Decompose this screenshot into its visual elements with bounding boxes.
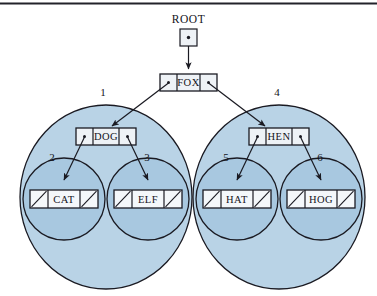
node-key-hog: HOG [309, 194, 333, 205]
subtree-label-6: 6 [317, 151, 323, 163]
node-fox: FOX [160, 74, 217, 91]
node-key-hen: HEN [267, 131, 290, 142]
node-key-fox: FOX [177, 77, 200, 88]
node-dog: DOG [76, 128, 136, 145]
node-hat: HAT [203, 190, 271, 208]
node-key-hat: HAT [226, 194, 248, 205]
bst-pointer-diagram: ROOT FOX 1 4 DOG 2 3 CAT [0, 0, 377, 296]
node-key-cat: CAT [53, 194, 74, 205]
root-pointer-dot [187, 36, 190, 39]
subtree-label-4: 4 [274, 86, 280, 98]
figure-canvas: ROOT FOX 1 4 DOG 2 3 CAT [0, 0, 377, 296]
node-key-elf: ELF [138, 194, 158, 205]
root-label: ROOT [172, 13, 206, 25]
subtree-label-2: 2 [49, 151, 55, 163]
node-cat: CAT [30, 190, 98, 208]
node-hen: HEN [249, 128, 309, 145]
subtree-label-5: 5 [223, 151, 229, 163]
node-elf: ELF [114, 190, 182, 208]
subtree-label-3: 3 [144, 151, 150, 163]
root-pointer-box [180, 29, 197, 46]
subtree-label-1: 1 [100, 86, 106, 98]
node-key-dog: DOG [94, 131, 118, 142]
node-hog: HOG [287, 190, 355, 208]
